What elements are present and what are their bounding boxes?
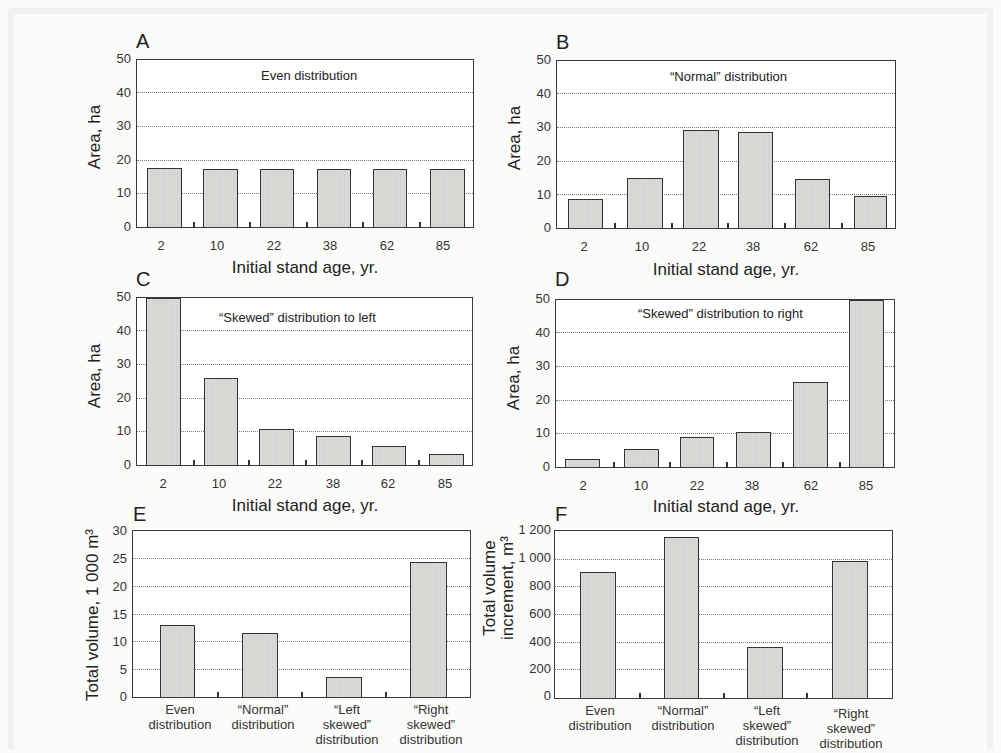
y-tick-label: 30 bbox=[511, 119, 551, 134]
x-tick bbox=[362, 222, 364, 227]
bar bbox=[147, 168, 182, 227]
bar bbox=[372, 446, 406, 465]
x-tick bbox=[727, 223, 729, 228]
x-category-label-line: “Normal” bbox=[223, 702, 303, 717]
x-category-label: 22 bbox=[682, 478, 712, 493]
gridline bbox=[137, 92, 473, 93]
x-category-label: 62 bbox=[373, 476, 403, 491]
y-tick-label: 40 bbox=[91, 85, 131, 100]
y-tick-label: 0 bbox=[91, 457, 131, 472]
bar bbox=[832, 561, 868, 698]
x-axis-title: Initial stand age, yr. bbox=[626, 260, 826, 280]
bar bbox=[326, 677, 362, 697]
y-tick-label: 0 bbox=[510, 459, 550, 474]
plot-area bbox=[132, 530, 471, 698]
x-category-label: 2 bbox=[148, 476, 178, 491]
bar bbox=[565, 459, 600, 467]
y-tick-label: 800 bbox=[509, 578, 551, 593]
bar bbox=[795, 179, 830, 228]
y-tick-label: 10 bbox=[510, 425, 550, 440]
y-tick-label: 30 bbox=[510, 358, 550, 373]
x-category-label-line: distribution bbox=[560, 718, 640, 733]
y-tick-label: 20 bbox=[91, 390, 131, 405]
gridline bbox=[137, 193, 473, 194]
x-category-label: “Left skewed” distribution bbox=[725, 703, 809, 748]
bar bbox=[430, 169, 465, 227]
x-axis-title: Initial stand age, yr. bbox=[205, 258, 405, 278]
plot-caption: “Normal” distribution bbox=[670, 69, 787, 84]
y-tick-label: 0 bbox=[91, 219, 131, 234]
gridline bbox=[557, 161, 895, 162]
x-tick bbox=[306, 222, 308, 227]
x-tick bbox=[418, 460, 420, 465]
gridline bbox=[557, 127, 895, 128]
bar bbox=[736, 432, 771, 467]
y-tick-label: 0 bbox=[511, 220, 551, 235]
panel-letter: C bbox=[136, 268, 150, 291]
panel-letter: A bbox=[136, 30, 149, 53]
x-category-label: “Right skewed” distribution bbox=[809, 706, 893, 751]
x-category-label-line: skewed” bbox=[305, 717, 389, 732]
bar bbox=[203, 169, 238, 227]
x-tick bbox=[613, 462, 615, 467]
y-tick-label: 50 bbox=[91, 51, 131, 66]
panel-letter: E bbox=[133, 503, 146, 526]
gridline bbox=[133, 558, 470, 559]
x-category-label: 85 bbox=[428, 238, 458, 253]
bar bbox=[627, 178, 663, 228]
x-tick bbox=[301, 692, 303, 697]
x-category-label-line: distribution bbox=[809, 736, 893, 751]
bar bbox=[854, 196, 887, 228]
x-axis-title: Initial stand age, yr. bbox=[626, 497, 826, 517]
y-tick-label: 50 bbox=[91, 289, 131, 304]
x-tick bbox=[723, 693, 725, 698]
x-category-label-line: distribution bbox=[140, 717, 220, 732]
x-tick bbox=[419, 222, 421, 227]
gridline bbox=[137, 398, 472, 399]
x-category-label-line: distribution bbox=[305, 732, 389, 747]
bar bbox=[260, 169, 294, 227]
gridline bbox=[556, 400, 894, 401]
x-category-label: Even distribution bbox=[560, 703, 640, 733]
y-tick-label: 50 bbox=[510, 291, 550, 306]
gridline bbox=[557, 93, 895, 94]
bar bbox=[738, 132, 773, 228]
y-tick-label: 30 bbox=[91, 118, 131, 133]
bar bbox=[317, 169, 351, 227]
x-tick bbox=[839, 462, 841, 467]
x-tick bbox=[841, 223, 843, 228]
gridline bbox=[557, 194, 895, 195]
x-category-label-line: skewed” bbox=[809, 721, 893, 736]
plot-caption: “Skewed” distribution to left bbox=[219, 310, 376, 325]
y-tick-label: 30 bbox=[87, 523, 127, 538]
y-tick-label: 20 bbox=[510, 392, 550, 407]
x-category-label-line: “Normal” bbox=[643, 703, 723, 718]
bar bbox=[793, 382, 828, 467]
x-tick bbox=[639, 693, 641, 698]
bar bbox=[316, 436, 351, 465]
x-category-label: 2 bbox=[569, 239, 599, 254]
x-tick bbox=[784, 223, 786, 228]
x-category-label: 10 bbox=[204, 476, 234, 491]
panel-letter: B bbox=[556, 31, 569, 54]
y-tick-label: 200 bbox=[509, 661, 551, 676]
bar bbox=[683, 130, 719, 228]
bar bbox=[373, 169, 407, 227]
y-tick-label: 20 bbox=[87, 579, 127, 594]
bar bbox=[624, 449, 659, 467]
x-category-label-line: distribution bbox=[389, 732, 473, 747]
x-category-label: 85 bbox=[430, 476, 460, 491]
x-category-label: “Normal” distribution bbox=[223, 702, 303, 732]
x-category-label-line: distribution bbox=[725, 733, 809, 748]
x-category-label: 62 bbox=[372, 238, 402, 253]
gridline bbox=[556, 366, 894, 367]
x-category-label: 62 bbox=[796, 478, 826, 493]
bar bbox=[849, 300, 884, 467]
y-tick-label: 30 bbox=[91, 356, 131, 371]
gridline bbox=[555, 559, 892, 560]
x-tick bbox=[671, 223, 673, 228]
y-tick-label: 5 bbox=[87, 662, 127, 677]
x-category-label-line: skewed” bbox=[389, 717, 473, 732]
plot-area: “Skewed” distribution to right bbox=[555, 299, 895, 468]
x-category-label: 22 bbox=[260, 476, 290, 491]
